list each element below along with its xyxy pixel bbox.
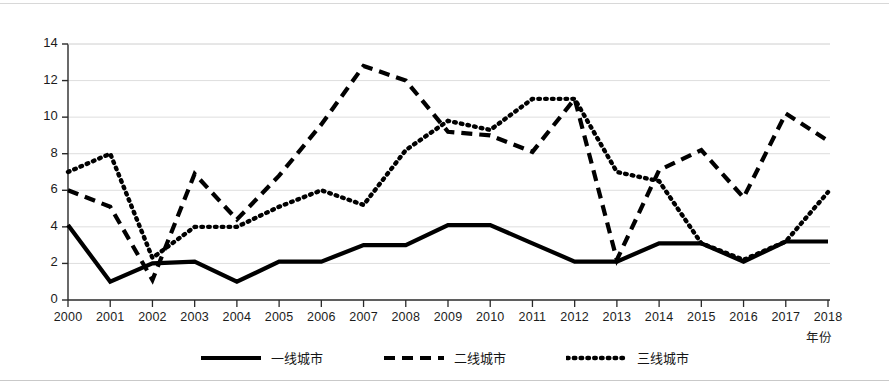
chart-legend: 一线城市二线城市三线城市 <box>0 348 889 367</box>
x-axis-ticks <box>68 300 828 307</box>
legend-label: 一线城市 <box>271 348 323 367</box>
y-axis-tick-label: 14 <box>28 35 58 50</box>
legend-item[interactable]: 一线城市 <box>200 348 323 367</box>
x-axis-tick-label: 2007 <box>340 310 388 324</box>
y-axis-tick-label: 4 <box>28 218 58 233</box>
legend-item[interactable]: 三线城市 <box>566 348 689 367</box>
x-axis-tick-label: 2014 <box>635 310 683 324</box>
x-axis-tick-label: 2002 <box>128 310 176 324</box>
x-axis-tick-label: 2004 <box>213 310 261 324</box>
x-axis-tick-label: 2013 <box>593 310 641 324</box>
series-line <box>68 99 828 260</box>
x-axis-tick-label: 2003 <box>171 310 219 324</box>
x-axis-tick-label: 2005 <box>255 310 303 324</box>
x-axis-tick-label: 2018 <box>804 310 852 324</box>
x-axis-tick-label: 2016 <box>720 310 768 324</box>
legend-swatch-solid <box>200 352 262 364</box>
chart-container: 02468101214 2000200120022003200420052006… <box>0 0 889 384</box>
gridlines <box>68 44 830 263</box>
plot-area <box>0 0 889 384</box>
legend-label: 二线城市 <box>454 348 506 367</box>
x-axis-tick-label: 2006 <box>297 310 345 324</box>
y-axis-tick-label: 8 <box>28 145 58 160</box>
legend-swatch-dotted <box>566 352 628 364</box>
x-axis-tick-label: 2010 <box>466 310 514 324</box>
legend-swatch-dashed <box>383 352 445 364</box>
y-axis-tick-label: 2 <box>28 254 58 269</box>
y-axis-tick-label: 10 <box>28 108 58 123</box>
x-axis-tick-label: 2009 <box>424 310 472 324</box>
y-axis-tick-label: 0 <box>28 291 58 306</box>
x-axis-tick-label: 2008 <box>382 310 430 324</box>
x-axis-tick-label: 2001 <box>86 310 134 324</box>
x-axis-title: 年份 <box>806 327 832 346</box>
legend-item[interactable]: 二线城市 <box>383 348 506 367</box>
legend-label: 三线城市 <box>637 348 689 367</box>
x-axis-tick-label: 2015 <box>677 310 725 324</box>
x-axis-tick-label: 2017 <box>762 310 810 324</box>
x-axis-tick-label: 2011 <box>508 310 556 324</box>
y-axis-tick-label: 6 <box>28 181 58 196</box>
y-axis-tick-label: 12 <box>28 72 58 87</box>
x-axis-tick-label: 2012 <box>551 310 599 324</box>
x-axis-tick-label: 2000 <box>44 310 92 324</box>
data-series-layer <box>68 66 828 282</box>
